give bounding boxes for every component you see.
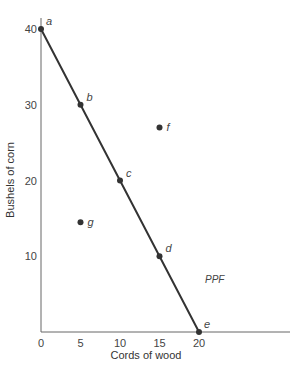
x-tick-label: 20 [193, 337, 205, 349]
point-b [78, 102, 84, 108]
y-tick-label: 40 [25, 23, 37, 35]
point-label-a: a [46, 15, 52, 27]
y-tick-label: 10 [25, 250, 37, 262]
y-axis-label: Bushels of corn [4, 142, 16, 218]
x-tick-label: 10 [114, 337, 126, 349]
x-tick-label: 5 [77, 337, 83, 349]
x-axis-label: Cords of wood [111, 349, 182, 361]
point-label-e: e [204, 318, 210, 330]
point-label-b: b [87, 91, 93, 103]
point-a [38, 26, 44, 32]
point-c [117, 178, 123, 184]
x-tick-label: 15 [153, 337, 165, 349]
point-d [157, 253, 163, 259]
point-label-d: d [166, 242, 173, 254]
y-tick-label: 20 [25, 175, 37, 187]
point-label-c: c [126, 167, 132, 179]
point-g [78, 219, 84, 225]
x-tick-label: 0 [38, 337, 44, 349]
y-tick-label: 30 [25, 99, 37, 111]
point-e [196, 329, 202, 335]
point-label-f: f [167, 121, 171, 133]
ppf-chart: 05101520 10203040 abcdefg PPF Cords of w… [0, 0, 293, 369]
ppf-label: PPF [205, 274, 225, 285]
point-label-g: g [88, 216, 95, 228]
point-f [157, 124, 163, 130]
